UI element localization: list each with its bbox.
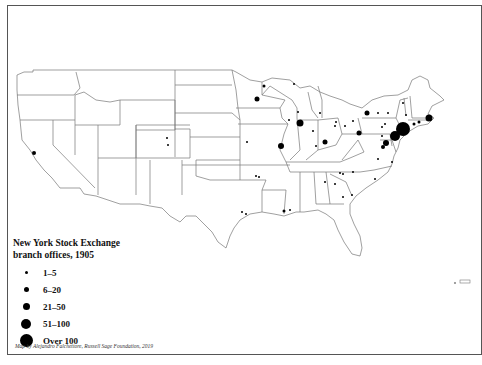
office-dot	[351, 194, 353, 196]
office-dot	[426, 115, 433, 122]
office-dot	[293, 83, 295, 85]
dot-icon	[24, 287, 29, 292]
dot-icon	[25, 271, 28, 274]
office-dot	[342, 196, 344, 198]
office-dot	[334, 183, 336, 185]
legend-title-line2: branch offices, 1905	[13, 249, 193, 261]
office-dot	[289, 209, 291, 211]
office-dot	[241, 211, 243, 213]
office-dot	[381, 145, 385, 149]
office-dot	[357, 131, 362, 136]
dot-icon	[21, 319, 31, 329]
office-dot	[342, 173, 344, 175]
legend-item-21-50: 21–50	[13, 298, 193, 315]
office-dot	[365, 111, 370, 116]
office-dot	[166, 137, 168, 139]
office-dot	[255, 97, 260, 102]
office-dot	[324, 181, 326, 183]
legend-item-1-5: 1–5	[13, 264, 193, 281]
office-dot	[255, 175, 257, 177]
office-dot	[405, 114, 407, 116]
office-dot	[377, 112, 379, 114]
office-dot	[352, 171, 354, 173]
office-dot	[381, 126, 383, 128]
map-credit: Map by Alejandro Falchettore, Russell Sa…	[15, 343, 153, 349]
office-dot	[418, 121, 421, 124]
legend-item-51-100: 51–100	[13, 315, 193, 332]
office-dot	[402, 102, 404, 104]
office-dot	[258, 176, 260, 178]
state-borders	[17, 70, 444, 256]
office-dot	[387, 112, 389, 114]
legend-title-line1: New York Stock Exchange	[13, 237, 193, 249]
office-dot	[377, 158, 379, 160]
office-dot	[384, 123, 386, 125]
office-dot	[334, 125, 336, 127]
office-dot	[315, 145, 317, 147]
office-dot	[319, 112, 321, 114]
office-dot	[32, 151, 36, 155]
office-dot	[245, 213, 247, 215]
island-inset	[454, 280, 470, 284]
office-dot	[335, 121, 337, 123]
office-dot	[167, 144, 169, 146]
office-dot	[396, 122, 410, 136]
office-dot	[297, 120, 304, 127]
office-dot	[246, 141, 248, 143]
office-dot	[374, 178, 376, 180]
office-dot	[352, 120, 354, 122]
legend-title: New York Stock Exchange branch offices, …	[13, 237, 193, 261]
office-dot	[312, 130, 314, 132]
office-dot	[344, 125, 346, 127]
legend-item-6-20: 6–20	[13, 281, 193, 298]
legend: New York Stock Exchange branch offices, …	[13, 237, 193, 349]
office-dot	[263, 85, 266, 88]
office-dot	[278, 143, 284, 149]
office-dot	[288, 119, 290, 121]
us-outline	[17, 70, 444, 256]
office-dot	[391, 161, 393, 163]
office-dot	[297, 111, 299, 113]
office-dot	[283, 210, 286, 213]
office-dot	[381, 135, 383, 137]
office-dot	[339, 172, 341, 174]
office-dot	[413, 123, 416, 126]
dot-icon	[23, 303, 30, 310]
office-dot	[383, 140, 389, 146]
office-dot	[323, 140, 328, 145]
